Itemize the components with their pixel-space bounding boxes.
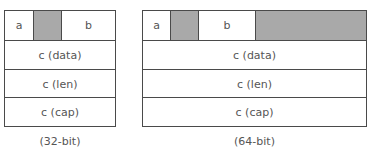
- row-label: c (len): [43, 78, 78, 91]
- field-a-label: a: [16, 19, 23, 32]
- row-label: c (cap): [236, 106, 274, 119]
- field-b: b: [61, 11, 115, 40]
- field-b: b: [198, 11, 255, 40]
- row-label: c (len): [237, 78, 272, 91]
- struct-layout-32bit: a b c (data) c (len) c (cap): [4, 10, 116, 127]
- caption-32bit: (32-bit): [4, 135, 116, 148]
- row-a-b: a b: [5, 11, 115, 40]
- field-a-label: a: [153, 19, 160, 32]
- padding-cell: [255, 11, 366, 40]
- row-c-len: c (len): [143, 69, 366, 98]
- row-label: c (cap): [41, 106, 79, 119]
- row-c-cap: c (cap): [5, 97, 115, 126]
- field-b-label: b: [224, 19, 231, 32]
- row-c-len: c (len): [5, 69, 115, 98]
- row-label: c (data): [39, 49, 82, 62]
- row-c-data: c (data): [5, 40, 115, 69]
- field-a: a: [143, 11, 170, 40]
- row-label: c (data): [233, 49, 276, 62]
- row-c-cap: c (cap): [143, 97, 366, 126]
- row-a-b: a b: [143, 11, 366, 40]
- caption-64bit: (64-bit): [142, 135, 367, 148]
- padding-cell: [170, 11, 198, 40]
- struct-layout-64bit: a b c (data) c (len) c (cap): [142, 10, 367, 127]
- row-c-data: c (data): [143, 40, 366, 69]
- padding-cell: [33, 11, 61, 40]
- field-a: a: [5, 11, 33, 40]
- field-b-label: b: [85, 19, 92, 32]
